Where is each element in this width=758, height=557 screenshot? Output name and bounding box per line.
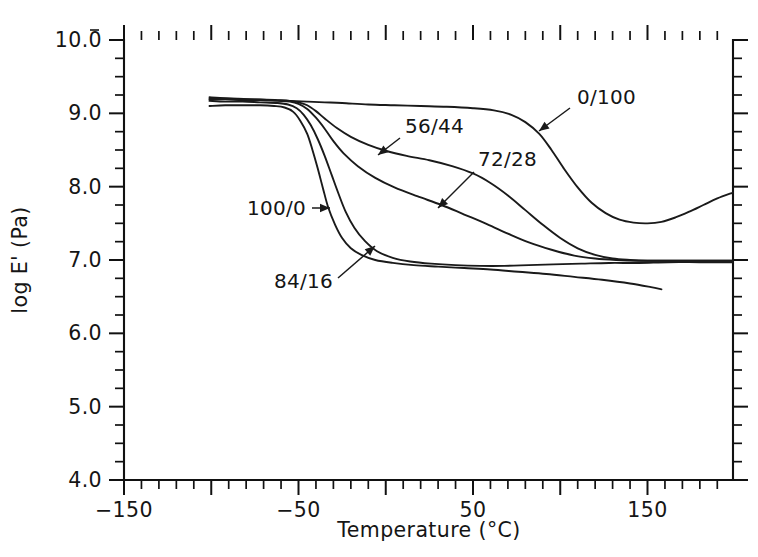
ann-72-28-text: 72/28 bbox=[478, 147, 537, 171]
y-tick-label: 7.0 bbox=[68, 248, 102, 272]
ann-100-0-text: 100/0 bbox=[247, 196, 306, 220]
x-tick-label: −50 bbox=[276, 498, 320, 522]
y-tick-label: 10.0 bbox=[55, 28, 102, 52]
y-tick-label: 6.0 bbox=[68, 321, 102, 345]
y-tick-label: 8.0 bbox=[68, 175, 102, 199]
dma-storage-modulus-chart: 10.09.08.07.06.05.04.0 −150−5050150 0/10… bbox=[0, 0, 758, 557]
y-axis-title-text: log E' (Pa) bbox=[8, 206, 32, 313]
y-axis-title: log E' (Pa) bbox=[8, 206, 32, 313]
x-axis-title: Temperature (°C) bbox=[336, 518, 520, 542]
y-tick-label: 9.0 bbox=[68, 101, 102, 125]
x-axis-title-text: Temperature (°C) bbox=[336, 518, 520, 542]
y-tick-label: 4.0 bbox=[68, 468, 102, 492]
chart-background bbox=[0, 0, 758, 557]
x-tick-label: −150 bbox=[95, 498, 153, 522]
ann-0-100-text: 0/100 bbox=[577, 85, 636, 109]
x-tick-label: 150 bbox=[627, 498, 667, 522]
ann-84-16-text: 84/16 bbox=[274, 269, 333, 293]
ann-56-44-text: 56/44 bbox=[405, 114, 464, 138]
y-tick-label: 5.0 bbox=[68, 395, 102, 419]
